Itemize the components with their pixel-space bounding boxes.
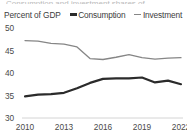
y-tick-label: 45 — [5, 46, 14, 56]
x-tick-label: 2010 — [15, 122, 35, 132]
y-axis-title: Percent of GDP — [4, 10, 61, 20]
legend-swatch-investment-icon — [134, 14, 141, 15]
cut-off-title: Consumption and investment shares of GDP — [6, 0, 146, 4]
legend-item-investment: Investment — [134, 10, 182, 20]
y-tick-label: 30 — [5, 113, 14, 123]
x-tick-label: 2016 — [93, 122, 113, 132]
legend-label-investment: Investment — [143, 10, 182, 20]
y-tick-label: 35 — [5, 91, 14, 101]
series-lines — [25, 41, 181, 97]
legend-label-consumption: Consumption — [78, 10, 125, 20]
series-line-consumption — [25, 78, 181, 97]
y-tick-label: 40 — [5, 68, 14, 78]
x-tick-label: 2013 — [54, 122, 74, 132]
series-line-investment — [25, 41, 181, 60]
chart-figure: Consumption and investment shares of GDP… — [0, 0, 187, 134]
legend-swatch-consumption-icon — [70, 13, 77, 15]
chart-canvas — [0, 20, 187, 134]
x-tick-label: 2022 — [171, 122, 187, 132]
plot-area: 5045403530 20102013201620192022 — [0, 20, 187, 134]
x-tick-label: 2019 — [132, 122, 152, 132]
legend-item-consumption: Consumption — [70, 10, 126, 20]
y-tick-label: 50 — [5, 23, 14, 33]
chart-legend: Percent of GDP Consumption Investment — [4, 9, 187, 20]
